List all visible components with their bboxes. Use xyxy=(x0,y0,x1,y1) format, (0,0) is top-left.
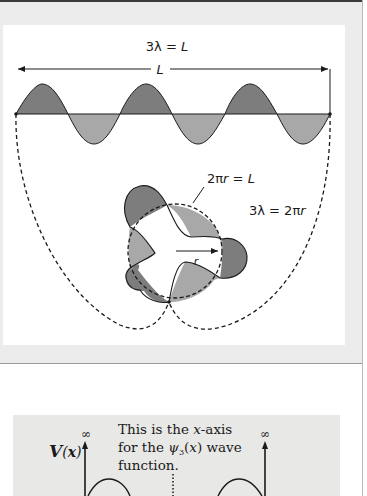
annotation-line-1: This is the x-axis xyxy=(118,421,232,437)
potential-well-diagram: V(x) ∞ ∞ This is the x-axis for the ψ3(x… xyxy=(0,0,367,496)
annotation-line-2: for the ψ3(x) wave xyxy=(118,439,242,457)
wave-function-psi3 xyxy=(88,479,262,496)
right-wall-infinity: ∞ xyxy=(260,427,270,441)
annotation-line-3: function. xyxy=(118,457,179,473)
right-wall-arrow-icon xyxy=(262,441,268,449)
potential-label: V(x) xyxy=(49,441,82,461)
left-wall-infinity: ∞ xyxy=(81,427,91,441)
left-wall-arrow-icon xyxy=(82,441,88,449)
